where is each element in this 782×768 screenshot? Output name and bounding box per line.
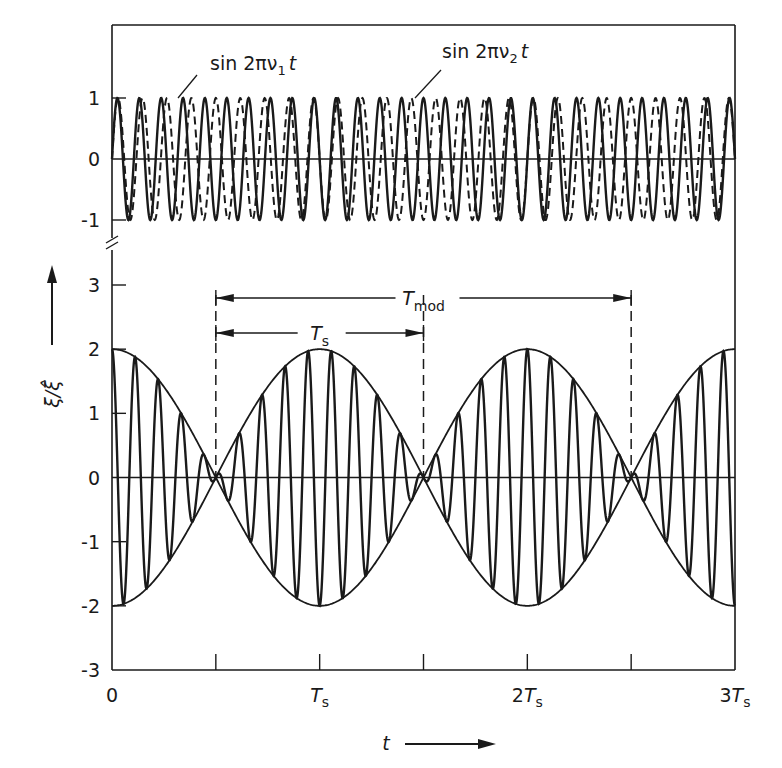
y-axis-arrow-icon <box>47 265 57 283</box>
x-tick-label: 3Ts <box>720 684 751 710</box>
y-axis-label: ξ/ξ̂ <box>40 265 63 409</box>
arrowhead-right-icon <box>613 294 631 302</box>
lower-y-tick-label: 2 <box>88 338 100 360</box>
x-axis-arrow-icon <box>478 739 496 749</box>
upper-y-tick-label: -1 <box>81 209 100 231</box>
arrowhead-right-icon <box>406 329 424 337</box>
beat-diagram: 10-1 3210-1-2-3 0Ts2Ts3Ts TmodTs sin 2πν… <box>0 0 782 768</box>
arrowhead-left-icon <box>216 294 234 302</box>
x-tick-label: Ts <box>310 684 329 710</box>
lower-y-tick-label: 0 <box>88 467 100 489</box>
axis-break-mark-2 <box>106 242 118 249</box>
label-sin-nu2: sin 2πν2t <box>415 40 530 98</box>
series-label-nu2: sin 2πν2t <box>442 40 530 66</box>
lower-y-tick-label: 1 <box>88 402 100 424</box>
y-axis-label-text: ξ/ξ̂ <box>40 380 63 409</box>
x-tick-label: 2Ts <box>512 684 543 710</box>
x-tick-label: 0 <box>106 684 118 706</box>
lower-y-tick-label: -1 <box>81 531 100 553</box>
leader-line-nu1 <box>178 75 197 98</box>
lower-y-tick-label: 3 <box>88 274 100 296</box>
upper-y-tick-label: 1 <box>88 87 100 109</box>
series-label-nu1: sin 2πν1t <box>210 52 298 78</box>
x-axis-label: t <box>382 732 496 754</box>
annotation-label-t-mod: Tmod <box>402 287 445 314</box>
x-axis: 0Ts2Ts3Ts <box>106 654 751 710</box>
upper-panel: 10-1 <box>81 87 735 231</box>
label-sin-nu1: sin 2πν1t <box>178 52 298 98</box>
upper-y-tick-label: 0 <box>88 148 100 170</box>
lower-y-tick-label: -2 <box>81 595 100 617</box>
arrowhead-left-icon <box>216 329 234 337</box>
leader-line-nu2 <box>415 70 441 98</box>
lower-y-tick-label: -3 <box>81 659 100 681</box>
annotation-label-t-s: Ts <box>310 322 329 349</box>
x-axis-label-text: t <box>382 732 391 754</box>
